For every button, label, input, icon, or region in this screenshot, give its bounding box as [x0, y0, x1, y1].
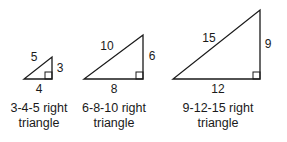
right-angle-marker: [45, 72, 52, 79]
caption-line2: triangle: [82, 116, 146, 131]
right-angle-marker: [253, 72, 260, 79]
caption-line1: 3-4-5 right: [11, 101, 68, 116]
vertical-leg-label: 6: [149, 50, 156, 62]
base-label: 8: [111, 83, 118, 95]
caption: 9-12-15 right triangle: [183, 101, 254, 131]
caption-line1: 6-8-10 right: [82, 101, 146, 116]
base-label: 4: [36, 83, 43, 95]
triangle-9-12-15: [173, 10, 260, 79]
vertical-leg-label: 3: [57, 62, 64, 74]
caption-line2: triangle: [183, 116, 254, 131]
caption-line1: 9-12-15 right: [183, 101, 254, 116]
base-label: 12: [211, 83, 224, 95]
triangle-3-4-5: [24, 57, 52, 79]
hypotenuse-label: 15: [202, 32, 215, 44]
right-angle-marker: [136, 72, 143, 79]
caption: 3-4-5 right triangle: [11, 101, 68, 131]
hypotenuse-label: 10: [100, 40, 113, 52]
hypotenuse-label: 5: [31, 51, 38, 63]
caption: 6-8-10 right triangle: [82, 101, 146, 131]
vertical-leg-label: 9: [265, 38, 272, 50]
caption-line2: triangle: [11, 116, 68, 131]
